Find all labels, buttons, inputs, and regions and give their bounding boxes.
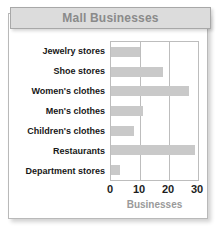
x-axis-title: Businesses: [110, 199, 199, 210]
bar-row: [111, 62, 198, 82]
bar-row: [111, 42, 198, 62]
bar-row: [111, 160, 198, 180]
bar: [111, 126, 134, 136]
category-label: Children's clothes: [8, 121, 109, 141]
gridline: [198, 42, 199, 180]
bar: [111, 86, 189, 96]
plot-area: [110, 41, 199, 181]
chart-title: Mall Businesses: [62, 11, 158, 25]
bar-row: [111, 141, 198, 161]
bar-row: [111, 101, 198, 121]
category-label: Restaurants: [8, 141, 109, 161]
category-axis-labels: Jewelry storesShoe storesWomen's clothes…: [8, 41, 109, 181]
chart-plot-region: Jewelry storesShoe storesWomen's clothes…: [8, 13, 208, 219]
bar: [111, 106, 143, 116]
x-tick-label: 0: [107, 183, 113, 195]
category-label: Department stores: [8, 161, 109, 181]
category-label: Men's clothes: [8, 101, 109, 121]
chart-figure: Mall Businesses Jewelry storesShoe store…: [0, 0, 220, 234]
chart-title-bar: Mall Businesses: [10, 7, 211, 29]
bar: [111, 165, 120, 175]
x-axis-tick-labels: 0102030: [110, 183, 199, 197]
category-label: Women's clothes: [8, 81, 109, 101]
bar: [111, 47, 140, 57]
bar: [111, 67, 163, 77]
category-label: Jewelry stores: [8, 41, 109, 61]
bar: [111, 145, 195, 155]
x-tick-label: 20: [162, 183, 174, 195]
bar-series: [111, 42, 198, 180]
x-tick-label: 10: [133, 183, 145, 195]
x-tick-label: 30: [191, 183, 203, 195]
bar-row: [111, 81, 198, 101]
category-label: Shoe stores: [8, 61, 109, 81]
bar-row: [111, 121, 198, 141]
